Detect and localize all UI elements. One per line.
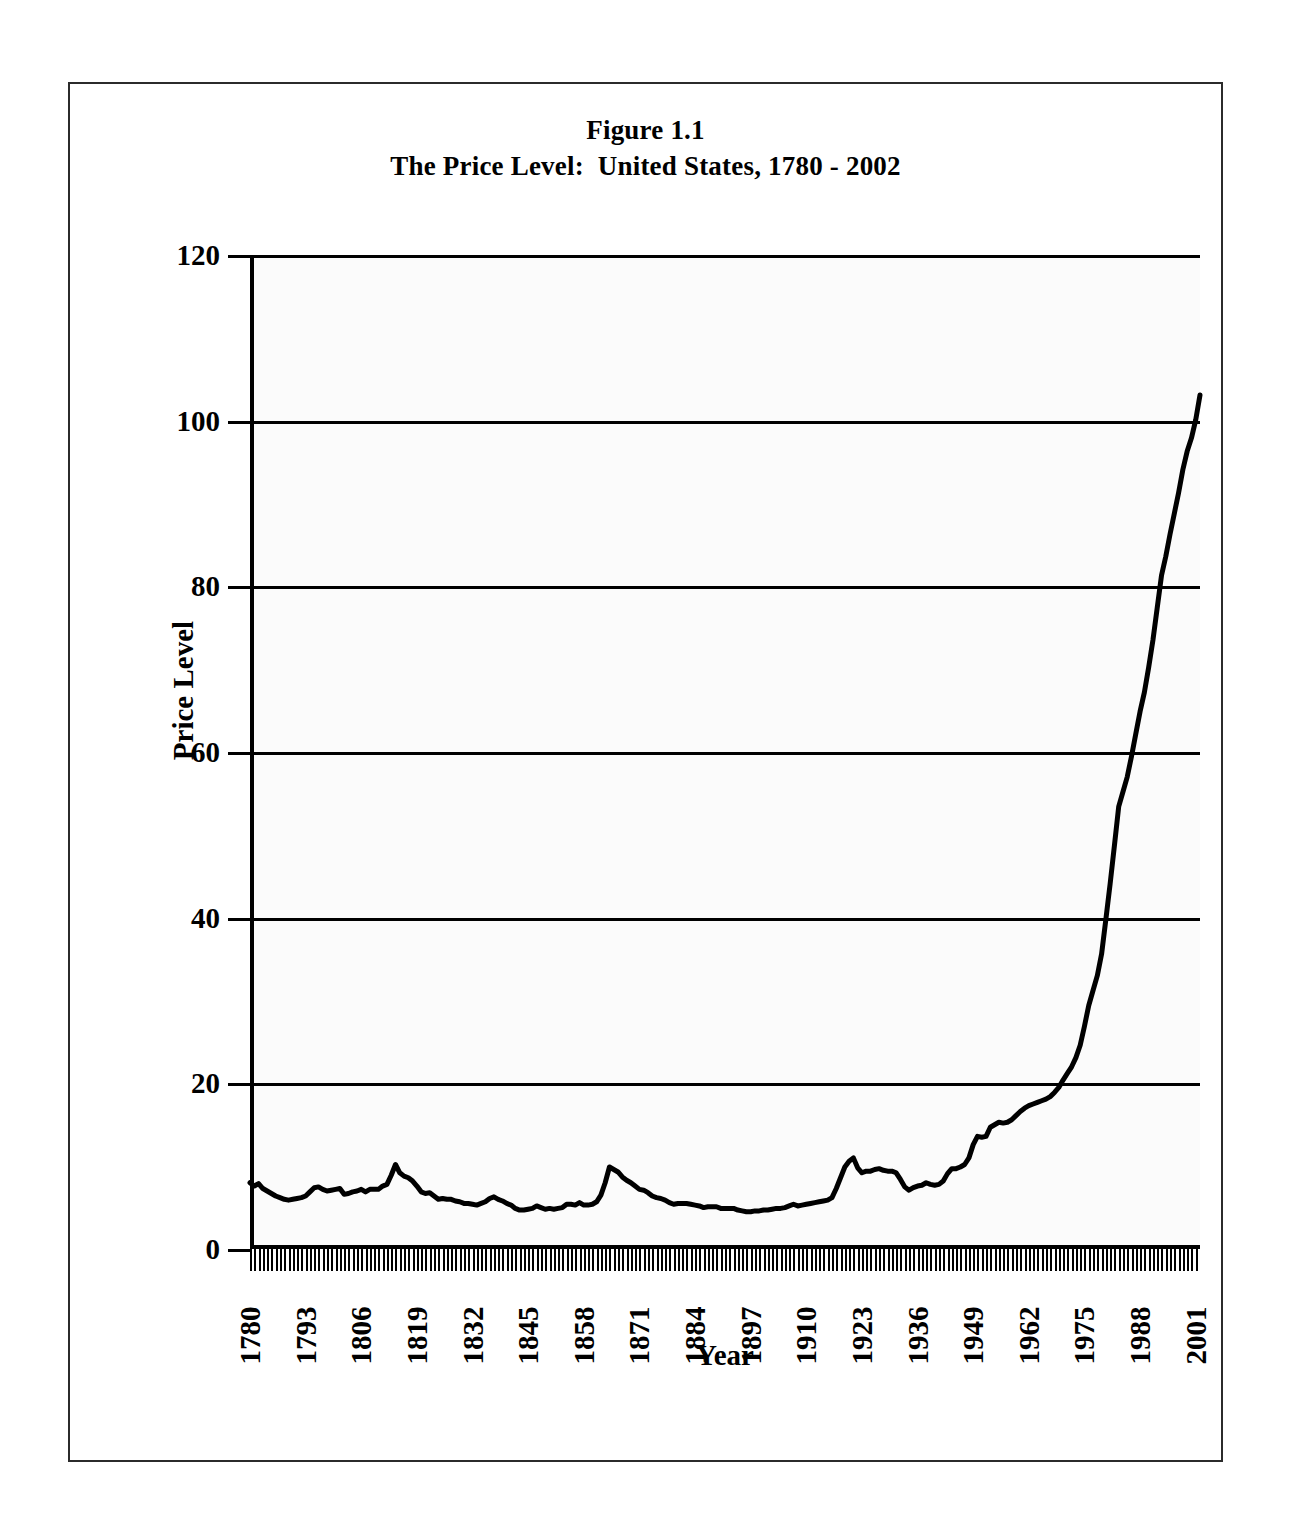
x-minor-tick <box>1080 1249 1082 1271</box>
x-minor-tick <box>455 1249 457 1271</box>
x-minor-tick <box>781 1249 783 1271</box>
x-minor-tick <box>498 1249 500 1271</box>
x-minor-tick <box>999 1249 1001 1271</box>
x-minor-tick <box>845 1249 847 1271</box>
x-minor-tick <box>742 1249 744 1271</box>
y-tick-label-0: 0 <box>206 1233 221 1266</box>
x-tick-label-1819: 1819 <box>400 1307 433 1365</box>
x-minor-tick <box>271 1249 273 1271</box>
x-minor-tick <box>1149 1249 1151 1271</box>
x-minor-tick <box>1119 1249 1121 1271</box>
x-minor-tick <box>1174 1249 1176 1271</box>
x-minor-tick <box>276 1249 278 1271</box>
x-tick-label-1936: 1936 <box>901 1307 934 1365</box>
x-minor-tick <box>443 1249 445 1271</box>
x-minor-tick <box>1166 1249 1168 1271</box>
x-minor-tick <box>331 1249 333 1271</box>
x-minor-tick <box>387 1249 389 1271</box>
y-tick-label-80: 80 <box>191 570 220 603</box>
x-minor-tick <box>811 1249 813 1271</box>
x-minor-tick <box>969 1249 971 1271</box>
x-minor-tick <box>366 1249 368 1271</box>
x-minor-tick <box>550 1249 552 1271</box>
x-minor-tick <box>267 1249 269 1271</box>
x-minor-tick <box>408 1249 410 1271</box>
x-minor-tick <box>990 1249 992 1271</box>
x-minor-tick <box>378 1249 380 1271</box>
x-minor-tick <box>301 1249 303 1271</box>
x-minor-tick <box>1136 1249 1138 1271</box>
x-minor-tick <box>627 1249 629 1271</box>
x-minor-tick <box>254 1249 256 1271</box>
x-minor-tick <box>1067 1249 1069 1271</box>
x-minor-tick <box>421 1249 423 1271</box>
x-minor-tick <box>751 1249 753 1271</box>
x-minor-tick <box>537 1249 539 1271</box>
y-tick-label-40: 40 <box>191 901 220 934</box>
x-minor-tick <box>1187 1249 1189 1271</box>
x-tick-label-1832: 1832 <box>456 1307 489 1365</box>
x-minor-tick <box>541 1249 543 1271</box>
x-minor-tick <box>832 1249 834 1271</box>
x-minor-tick <box>639 1249 641 1271</box>
x-minor-tick <box>708 1249 710 1271</box>
x-minor-tick <box>892 1249 894 1271</box>
x-minor-tick <box>721 1249 723 1271</box>
x-minor-tick <box>691 1249 693 1271</box>
price-level-series <box>250 255 1200 1249</box>
x-minor-tick <box>370 1249 372 1271</box>
x-minor-tick <box>545 1249 547 1271</box>
y-tick-label-120: 120 <box>177 239 221 272</box>
x-minor-tick <box>306 1249 308 1271</box>
x-minor-tick <box>883 1249 885 1271</box>
x-minor-tick <box>1076 1249 1078 1271</box>
x-minor-tick <box>383 1249 385 1271</box>
x-minor-tick <box>635 1249 637 1271</box>
x-minor-tick <box>1033 1249 1035 1271</box>
x-minor-tick <box>729 1249 731 1271</box>
x-minor-tick <box>631 1249 633 1271</box>
x-minor-tick <box>1012 1249 1014 1271</box>
x-minor-tick <box>648 1249 650 1271</box>
x-minor-tick <box>447 1249 449 1271</box>
x-minor-tick <box>515 1249 517 1271</box>
x-minor-tick <box>1007 1249 1009 1271</box>
x-minor-tick <box>956 1249 958 1271</box>
x-tick-label-1871: 1871 <box>623 1307 656 1365</box>
x-minor-tick <box>652 1249 654 1271</box>
x-minor-tick <box>1179 1249 1181 1271</box>
x-minor-tick <box>1140 1249 1142 1271</box>
figure-title-line1: Figure 1.1 <box>70 112 1221 148</box>
x-minor-tick <box>473 1249 475 1271</box>
x-tick-label-1910: 1910 <box>790 1307 823 1365</box>
x-minor-tick <box>870 1249 872 1271</box>
x-minor-tick <box>1153 1249 1155 1271</box>
x-minor-tick <box>374 1249 376 1271</box>
x-minor-tick <box>528 1249 530 1271</box>
x-minor-tick <box>686 1249 688 1271</box>
x-minor-tick <box>395 1249 397 1271</box>
x-minor-tick <box>806 1249 808 1271</box>
x-minor-tick <box>1003 1249 1005 1271</box>
x-minor-tick <box>828 1249 830 1271</box>
x-minor-tick <box>430 1249 432 1271</box>
x-minor-tick <box>562 1249 564 1271</box>
x-minor-tick <box>674 1249 676 1271</box>
x-minor-tick <box>1106 1249 1108 1271</box>
x-minor-tick <box>567 1249 569 1271</box>
x-minor-tick <box>725 1249 727 1271</box>
x-minor-tick <box>1170 1249 1172 1271</box>
x-tick-label-1949: 1949 <box>957 1307 990 1365</box>
x-minor-tick <box>793 1249 795 1271</box>
x-minor-tick <box>716 1249 718 1271</box>
x-tick-label-1858: 1858 <box>567 1307 600 1365</box>
x-minor-tick <box>858 1249 860 1271</box>
x-minor-tick <box>862 1249 864 1271</box>
x-tick-label-1897: 1897 <box>734 1307 767 1365</box>
x-minor-tick <box>404 1249 406 1271</box>
x-minor-tick <box>1114 1249 1116 1271</box>
x-minor-tick <box>609 1249 611 1271</box>
x-minor-tick <box>712 1249 714 1271</box>
x-minor-tick-band <box>250 1249 1200 1271</box>
x-minor-tick <box>926 1249 928 1271</box>
